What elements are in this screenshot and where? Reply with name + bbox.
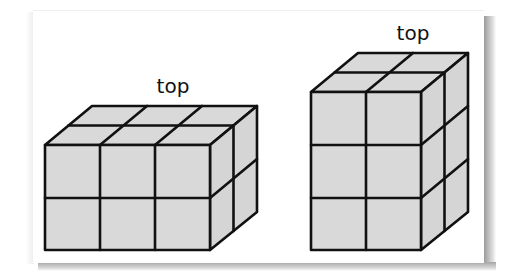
left-prism <box>45 106 257 250</box>
right-prism-top-label: top <box>397 21 430 45</box>
prisms-figure: top top <box>0 0 509 273</box>
right-prism <box>311 53 468 250</box>
left-prism-top-label: top <box>157 74 190 98</box>
